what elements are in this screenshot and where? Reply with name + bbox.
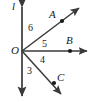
point-label-a: A xyxy=(49,9,56,20)
point-label-b: B xyxy=(66,35,73,46)
point-a-marker xyxy=(60,19,64,23)
angle-label-3: 3 xyxy=(27,66,32,76)
line-label-l: l xyxy=(12,1,15,12)
point-c-marker xyxy=(52,81,56,85)
angle-label-5: 5 xyxy=(42,39,47,49)
point-label-c: C xyxy=(57,72,64,83)
vertex-label-o: O xyxy=(11,45,19,56)
angle-label-6: 6 xyxy=(28,23,33,33)
angle-diagram-figure: l O A B C 6 5 4 3 xyxy=(0,0,95,102)
point-b-marker xyxy=(68,49,72,53)
angle-label-4: 4 xyxy=(40,55,45,65)
